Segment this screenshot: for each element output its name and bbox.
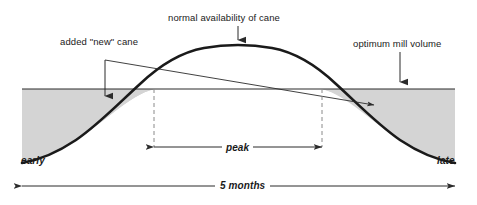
label-normal-availability-of-cane: normal availability of cane (168, 12, 280, 23)
diagram-canvas (0, 0, 477, 205)
label-early: early (21, 155, 45, 166)
shaded-availability-region (22, 46, 455, 172)
label-peak: peak (222, 142, 253, 153)
label-added-new-cane: added "new" cane (60, 36, 138, 47)
label-late: late (437, 155, 455, 166)
label-optimum-mill-volume: optimum mill volume (353, 38, 441, 49)
cane-availability-diagram: normal availability of cane added "new" … (0, 0, 477, 205)
label-duration-5-months: 5 months (215, 180, 270, 191)
